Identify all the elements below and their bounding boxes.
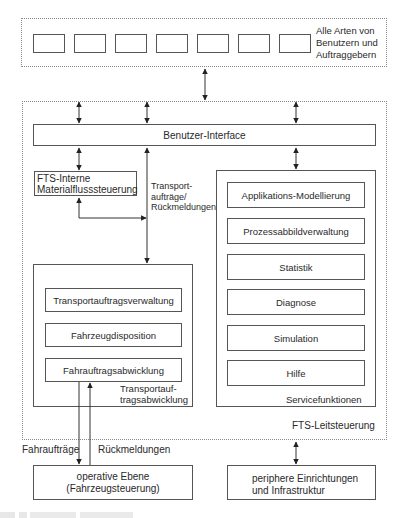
periphere-einrichtungen-box: periphere Einrichtungen und Infrastruktu… [227, 465, 376, 500]
fts-leitsteuerung-label: FTS-Leitsteuerung [292, 420, 375, 431]
fahrauftraege-label: Fahraufträge [22, 444, 79, 455]
benutzer-interface-box: Benutzer-Interface [33, 124, 376, 146]
materialflusssteuerung-box: FTS-Interne Materialflusssteuerung [34, 171, 137, 196]
user-box [197, 34, 229, 53]
user-box [33, 34, 65, 53]
service-item-statistik: Statistik [227, 254, 365, 280]
service-item-applikations-modellierung: Applikations-Modellierung [227, 182, 365, 208]
user-box [238, 34, 270, 53]
service-item-diagnose: Diagnose [227, 289, 365, 315]
fahrauftragsabwicklung-box: Fahrauftragsabwicklung [45, 358, 182, 382]
operative-ebene-box: operative Ebene (Fahrzeugsteuerung) [33, 465, 193, 500]
service-item-prozessabbildverwaltung: Prozessabbildverwaltung [227, 218, 365, 244]
figure-caption-cutoff [0, 512, 190, 518]
transport-link-label: Transport- aufträge/ Rückmeldungen [151, 181, 216, 213]
transportauftragsverwaltung-box: Transportauftragsverwaltung [45, 288, 182, 312]
user-box [115, 34, 147, 53]
service-item-hilfe: Hilfe [227, 360, 365, 386]
fahrzeugdisposition-box: Fahrzeugdisposition [45, 323, 182, 347]
servicefunktionen-label: Servicefunktionen [286, 394, 362, 405]
users-group-label: Alle Arten von Benutzern und Auftraggebe… [316, 25, 378, 61]
user-box [279, 34, 311, 53]
rueckmeldungen-label: Rückmeldungen [98, 444, 170, 455]
user-box [74, 34, 106, 53]
transportauftragsabwicklung-label: Transportauf- tragsabwicklung [120, 383, 188, 405]
user-box [156, 34, 188, 53]
service-item-simulation: Simulation [227, 325, 365, 351]
